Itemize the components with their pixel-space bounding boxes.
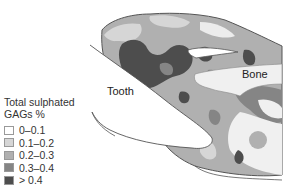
- legend-label: 0.3–0.4: [19, 162, 54, 174]
- legend-item: 0–0.1: [4, 124, 84, 137]
- legend-label: > 0.4: [19, 174, 43, 186]
- legend-item: 0.1–0.2: [4, 137, 84, 150]
- legend-label: 0.2–0.3: [19, 149, 54, 161]
- legend-item: > 0.4: [4, 174, 84, 187]
- legend-swatch: [4, 176, 14, 185]
- legend-title-line1: Total sulphated: [4, 96, 84, 108]
- legend-swatch: [4, 151, 14, 160]
- legend: Total sulphated GAGs % 0–0.1 0.1–0.2 0.2…: [4, 96, 84, 187]
- legend-label: 0.1–0.2: [19, 137, 54, 149]
- legend-swatch: [4, 126, 14, 135]
- legend-title: Total sulphated GAGs %: [4, 96, 84, 120]
- legend-label: 0–0.1: [19, 124, 45, 136]
- gag-distribution-figure: Tooth Bone Total sulphated GAGs % 0–0.1 …: [0, 0, 287, 191]
- legend-item: 0.3–0.4: [4, 162, 84, 175]
- bone-label: Bone: [242, 68, 268, 80]
- legend-item: 0.2–0.3: [4, 149, 84, 162]
- legend-swatch: [4, 163, 14, 172]
- legend-swatch: [4, 138, 14, 147]
- legend-title-line2: GAGs %: [4, 108, 84, 120]
- tooth-label: Tooth: [107, 85, 134, 97]
